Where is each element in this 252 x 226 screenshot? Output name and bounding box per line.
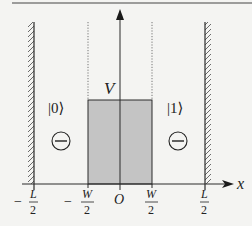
- potential-well-diagram: x V |0⟩ |1⟩ − L 2 − W 2 O W 2 L 2: [0, 0, 252, 226]
- tick-label-W-half: W 2: [145, 187, 158, 217]
- left-wall-hatch: [28, 22, 34, 184]
- svg-text:2: 2: [201, 203, 207, 217]
- svg-text:W: W: [146, 187, 157, 201]
- vertical-axis-arrow-icon: [116, 9, 124, 20]
- left-state-ket: |0⟩: [48, 100, 64, 116]
- right-charge-icon: [169, 132, 187, 150]
- barrier-height-label: V: [104, 79, 117, 98]
- svg-text:W: W: [82, 187, 93, 201]
- x-axis-label: x: [236, 175, 244, 192]
- svg-text:−: −: [14, 194, 22, 209]
- svg-text:L: L: [29, 187, 37, 201]
- svg-text:L: L: [200, 187, 208, 201]
- tick-label-L-half: L 2: [200, 187, 209, 217]
- tick-label-minus-L-half: − L 2: [14, 187, 38, 217]
- svg-text:−: −: [64, 194, 72, 209]
- tick-label-minus-W-half: − W 2: [64, 187, 94, 217]
- right-state-ket: |1⟩: [167, 100, 183, 116]
- svg-text:2: 2: [84, 203, 90, 217]
- svg-text:2: 2: [30, 203, 36, 217]
- svg-text:2: 2: [148, 203, 154, 217]
- origin-label: O: [114, 192, 124, 207]
- left-charge-icon: [52, 132, 70, 150]
- right-wall-hatch: [205, 22, 211, 184]
